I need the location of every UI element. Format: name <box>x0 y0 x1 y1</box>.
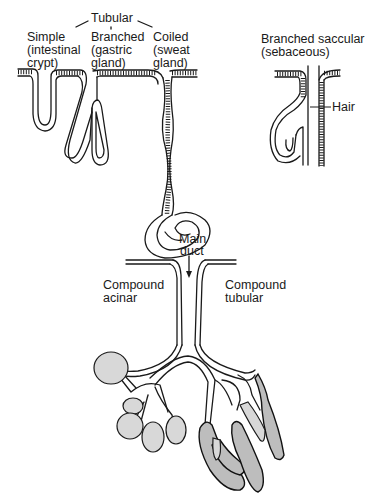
branched-label-line3: gland) <box>91 57 126 70</box>
main-duct <box>126 256 236 345</box>
compound-acinar-sacs <box>94 352 186 452</box>
hair-label: Hair <box>332 101 355 114</box>
compound-tubular-label-line2: tubular <box>225 292 263 305</box>
sebaceous-gland <box>270 66 340 166</box>
compound-tubular-tubes <box>199 374 284 492</box>
tubular-label: Tubular <box>91 12 133 25</box>
coiled-label-line3: gland) <box>153 57 188 70</box>
simple-label-line3: crypt) <box>27 57 58 70</box>
saccular-label-line2: (sebaceous) <box>261 46 330 59</box>
compound-acinar-label-line2: acinar <box>103 292 137 305</box>
coiled-gland <box>145 77 210 258</box>
main-duct-label-line2: duct <box>180 245 204 258</box>
